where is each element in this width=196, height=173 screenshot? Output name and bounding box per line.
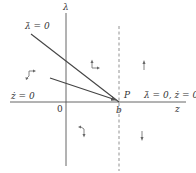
- flow-arrow-lower-right: [141, 131, 144, 141]
- lambda-dot-zero-curve: [31, 34, 119, 102]
- flow-arrow-lower-middle: [78, 126, 86, 138]
- z-axis-label: z: [174, 104, 180, 114]
- z-dot-zero-label: ż = 0: [10, 91, 35, 101]
- lambda-dot-zero-label: λ̇ = 0: [24, 21, 50, 31]
- origin-label: 0: [57, 104, 63, 114]
- both-zero-label: λ̇ = 0, ż = 0: [143, 90, 196, 100]
- phase-diagram: λ λ̇ = 0 ż = 0 0 b P λ̇ = 0, ż = 0 z: [0, 0, 196, 173]
- flow-arrow-upper-left: [26, 70, 37, 81]
- trajectory-arrow: [50, 78, 116, 100]
- point-p-label: P: [123, 90, 131, 100]
- flow-arrow-upper-right: [143, 60, 146, 70]
- b-label: b: [116, 105, 122, 115]
- lambda-axis-label: λ: [62, 2, 69, 12]
- flow-arrow-upper-middle: [91, 60, 101, 70]
